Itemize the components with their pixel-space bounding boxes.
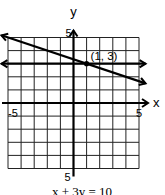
- x-tick-label-5: 5: [136, 107, 142, 119]
- intersection-point: [84, 61, 89, 66]
- equation-caption: x + 3y = 10: [52, 184, 112, 195]
- point-label: (1, 3): [91, 50, 118, 62]
- y-axis-label: y: [70, 4, 77, 19]
- x-axis-label: x: [153, 95, 160, 110]
- x-tick-label-neg5: -5: [8, 107, 18, 119]
- y-tick-label-neg5: 5: [64, 171, 70, 183]
- graph: y x -5 5 5 5 (1, 3) x + 3y = 10: [0, 0, 165, 195]
- y-tick-label-5: 5: [65, 27, 71, 39]
